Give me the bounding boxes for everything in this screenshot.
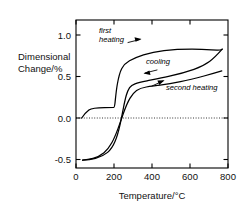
y-axis-title-line2: Change/% (18, 63, 63, 74)
x-tick-label-200: 200 (106, 171, 122, 182)
x-axis-title: Temperature/°C (119, 190, 186, 201)
annotation-cooling: cooling (146, 57, 171, 66)
annotation-second-heating: second heating (166, 83, 218, 92)
figure-container: 1.0 0.5 0.0 -0.5 0 200 400 600 800 Tempe… (0, 0, 252, 211)
x-tick-label-800: 800 (220, 171, 236, 182)
annotation-first-heating-arrow (128, 37, 142, 42)
dilatometry-chart: 1.0 0.5 0.0 -0.5 0 200 400 600 800 Tempe… (0, 0, 252, 211)
x-tick-label-0: 0 (73, 171, 78, 182)
x-tick-label-400: 400 (144, 171, 160, 182)
y-axis-ticks (76, 35, 228, 160)
y-tick-label-neg-0-5: -0.5 (55, 154, 71, 165)
x-tick-label-600: 600 (182, 171, 198, 182)
annotation-first-heating-line2: heating (99, 35, 125, 44)
annotation-cooling-arrow (144, 70, 158, 75)
annotation-first-heating-line1: first (99, 26, 112, 35)
y-tick-label-0-0: 0.0 (58, 113, 71, 124)
y-tick-label-1-0: 1.0 (58, 30, 71, 41)
y-axis-title-line1: Dimensional (18, 51, 70, 62)
